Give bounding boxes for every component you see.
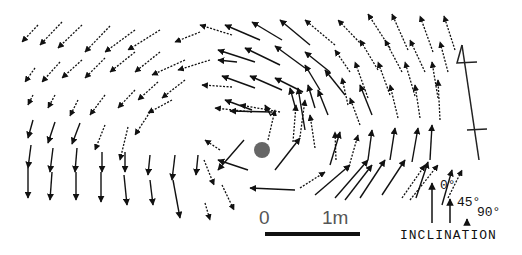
- flow-arrow: [70, 100, 78, 116]
- flow-arrow: [350, 98, 360, 125]
- flow-arrow: [250, 188, 295, 190]
- flow-arrow: [225, 25, 260, 40]
- flow-arrow: [85, 26, 110, 52]
- flow-arrow: [48, 95, 55, 108]
- vector-field-diagram: 0 1m 0° 45° 90° INCLINATION: [0, 0, 522, 255]
- flow-arrow: [275, 138, 300, 170]
- flow-arrow: [368, 130, 372, 160]
- flow-arrow: [412, 128, 418, 162]
- legend-label-90: 90°: [477, 205, 500, 220]
- flow-arrow: [308, 85, 315, 108]
- flow-arrow: [62, 60, 82, 78]
- flow-arrow: [172, 155, 175, 180]
- flow-arrow: [390, 85, 398, 118]
- flow-arrow: [390, 128, 395, 160]
- flow-arrow: [280, 20, 310, 45]
- flow-arrow: [202, 85, 232, 87]
- flow-arrow: [40, 22, 62, 45]
- flow-arrow: [72, 123, 80, 144]
- flow-arrow: [218, 60, 237, 62]
- flow-arrow: [75, 148, 77, 172]
- flow-arrow: [330, 132, 340, 165]
- flow-arrow: [128, 30, 160, 50]
- flow-arrow: [225, 100, 252, 110]
- flow-arrow: [135, 52, 160, 72]
- flow-arrow: [196, 155, 198, 175]
- flow-arrow: [432, 62, 438, 98]
- flow-arrow: [230, 111, 272, 112]
- flow-arrow: [300, 172, 325, 188]
- flow-arrow: [392, 14, 408, 50]
- flow-arrow: [360, 40, 378, 70]
- flow-arrow: [42, 62, 60, 82]
- flow-arrow: [355, 62, 368, 98]
- flow-arrow: [28, 95, 33, 105]
- flow-arrow: [290, 88, 296, 110]
- flow-arrow: [252, 22, 282, 40]
- flow-arrow: [318, 90, 328, 115]
- flow-arrow: [135, 112, 150, 135]
- flow-arrow: [410, 165, 438, 200]
- flow-arrow: [222, 185, 234, 210]
- flow-arrow: [440, 42, 448, 72]
- flow-arrow: [293, 105, 296, 142]
- flow-arrow: [22, 25, 38, 42]
- flow-arrow: [118, 90, 135, 108]
- flow-arrow: [378, 62, 390, 95]
- flow-arrow: [430, 125, 432, 160]
- flow-arrow: [58, 25, 82, 48]
- flow-arrow: [178, 60, 210, 70]
- scale-end-label: 1m: [322, 207, 348, 229]
- scale-start-label: 0: [259, 207, 270, 229]
- flow-arrow: [90, 95, 105, 115]
- flow-arrow: [50, 172, 52, 200]
- flow-arrow: [152, 60, 185, 75]
- flow-arrow: [110, 52, 135, 72]
- flow-arrow: [310, 115, 315, 148]
- flow-arrow: [305, 52, 330, 72]
- flow-arrow: [28, 145, 31, 168]
- flow-arrow: [204, 160, 214, 185]
- flow-arrow: [218, 140, 244, 170]
- flow-arrow: [360, 85, 372, 115]
- flow-arrow: [410, 40, 425, 72]
- flow-arrow: [305, 20, 335, 45]
- flow-arrow: [148, 155, 150, 175]
- flow-arrow: [382, 160, 405, 195]
- flow-arrow: [420, 16, 433, 52]
- flow-arrow: [25, 68, 35, 82]
- flow-arrow: [245, 48, 280, 65]
- flow-arrow: [28, 120, 33, 138]
- flow-arrow: [138, 82, 158, 100]
- flow-arrow: [438, 80, 440, 120]
- flow-arrow: [315, 165, 350, 195]
- flow-arrow: [305, 65, 320, 90]
- flow-arrow: [85, 58, 105, 78]
- flow-arrow: [405, 62, 415, 96]
- scale-bar: [265, 232, 360, 236]
- flow-arrow: [105, 30, 135, 52]
- flow-arrow: [148, 100, 172, 113]
- legend-label-0: 0°: [440, 178, 456, 193]
- flow-arrow: [175, 32, 200, 42]
- flow-arrow: [162, 80, 185, 98]
- flow-arrow: [50, 148, 53, 172]
- flow-arrow: [325, 70, 345, 95]
- flow-arrow: [124, 175, 127, 205]
- flow-arrow: [335, 50, 350, 72]
- flow-arrow: [444, 16, 455, 50]
- flow-arrows: [22, 14, 462, 220]
- flow-arrow: [150, 180, 153, 205]
- flow-arrow: [268, 110, 275, 140]
- flow-arrow: [173, 180, 180, 218]
- legend-title: INCLINATION: [400, 228, 497, 243]
- flow-arrow: [205, 140, 220, 150]
- north-arrow-icon: [457, 45, 487, 160]
- flow-arrow: [48, 122, 55, 143]
- flow-arrow: [95, 125, 105, 150]
- flow-arrow: [120, 127, 128, 160]
- flow-arrow: [205, 203, 210, 220]
- flow-arrow: [265, 105, 271, 116]
- flow-arrow: [415, 85, 420, 118]
- center-marker: [254, 142, 270, 158]
